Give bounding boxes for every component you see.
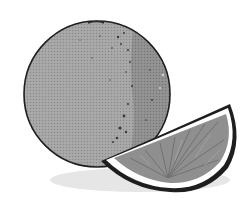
illustration	[0, 0, 252, 216]
orange-illustration	[0, 0, 252, 216]
